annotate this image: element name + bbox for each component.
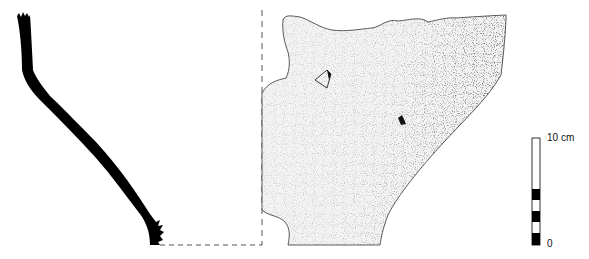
exterior-view [255, 10, 515, 250]
scale-segment [532, 211, 540, 222]
vessel-profile-section [17, 12, 164, 245]
scale-segment [532, 233, 540, 245]
scale-label-top: 10 cm [547, 132, 574, 143]
scale-segment [532, 189, 540, 200]
stipple-shading [255, 10, 515, 250]
scale-bar [532, 138, 540, 245]
scale-label-bottom: 0 [547, 238, 553, 249]
pottery-drawing [0, 0, 589, 259]
